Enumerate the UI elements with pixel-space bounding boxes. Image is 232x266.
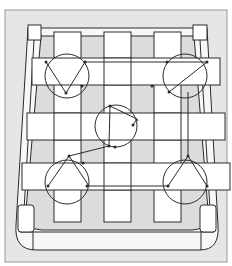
corner-block-right <box>200 205 216 232</box>
corner-post-right <box>193 25 207 40</box>
corner-block-left <box>18 205 34 232</box>
chair-seat-webbing-diagram <box>0 0 232 266</box>
corner-post-left <box>28 25 41 40</box>
webbing-vertical-3-over <box>154 113 181 140</box>
webbing-vertical-1-over <box>54 113 81 140</box>
